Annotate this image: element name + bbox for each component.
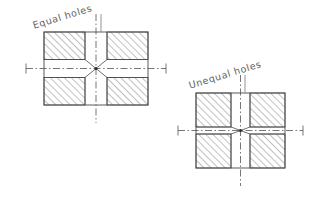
quadrant-top-right [250,93,285,127]
center-point [239,129,242,132]
technical-drawing-svg [0,0,320,201]
taper-diagonal [85,69,96,78]
center-point [95,67,98,70]
taper-diagonal [231,131,241,135]
figure-equal-holes [26,14,166,123]
taper-diagonal [241,127,251,131]
taper-diagonal [85,60,96,69]
quadrant-top-left [196,93,231,127]
taper-diagonal [96,69,107,78]
quadrant-bottom-left [196,134,231,168]
taper-diagonal [241,131,251,135]
taper-diagonal [231,127,241,131]
quadrant-bottom-left [44,78,85,106]
quadrant-top-right [107,32,148,60]
quadrant-bottom-right [250,134,285,168]
quadrant-bottom-right [107,78,148,106]
figure-unequal-holes [178,75,303,186]
taper-diagonal [96,60,107,69]
drawing-canvas-root: Equal holes Unequal holes [0,0,320,201]
quadrant-top-left [44,32,85,60]
